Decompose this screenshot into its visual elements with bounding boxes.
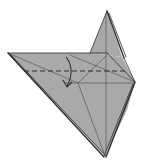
origami-diagram [0, 0, 148, 165]
main-body [8, 53, 135, 156]
